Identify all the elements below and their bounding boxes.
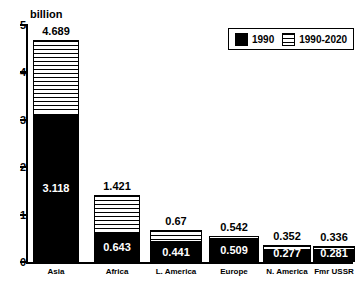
bar-stack: 3.118 <box>33 40 79 262</box>
bar-total-label: 1.421 <box>103 180 131 192</box>
bar-value-label-1990: 0.509 <box>220 244 248 256</box>
bar-stack: 0.643 <box>94 195 140 262</box>
bar-group: 0.6431.421Africa <box>94 195 140 262</box>
bar-segment-1990-2020 <box>95 196 139 231</box>
bar-segment-1990-2020 <box>34 41 78 113</box>
x-axis-category-label: L. America <box>156 267 197 276</box>
x-axis-category-label: Europe <box>220 267 248 276</box>
bar-group: 3.1184.689Asia <box>33 40 79 262</box>
bar-group: 0.5090.542Europe <box>209 236 259 262</box>
bar-stack: 0.509 <box>209 236 259 262</box>
bar-segment-1990: 0.643 <box>95 232 139 261</box>
bar-value-label-1990: 0.643 <box>103 241 131 253</box>
bar-stack: 0.277 <box>263 245 311 262</box>
bar-group: 0.2770.352N. America <box>263 245 311 262</box>
bar-total-label: 0.542 <box>220 221 248 233</box>
legend-label-1990-2020: 1990-2020 <box>299 34 347 45</box>
x-axis-category-label: Africa <box>106 267 129 276</box>
bar-total-label: 0.336 <box>320 231 348 243</box>
bar-group: 0.2810.336Fmr USSR <box>313 246 355 262</box>
population-stacked-bar-chart: billion 012345 3.1184.689Asia0.6431.421A… <box>0 0 361 290</box>
x-axis-category-label: Fmr USSR <box>314 267 354 276</box>
bar-total-label: 0.352 <box>273 230 301 242</box>
legend-swatch-hatch-icon <box>282 33 295 46</box>
bar-segment-1990: 0.441 <box>151 241 201 261</box>
legend-swatch-solid-icon <box>235 33 248 46</box>
legend-item-1990-2020: 1990-2020 <box>282 33 347 46</box>
bar-segment-1990-2020 <box>151 231 201 240</box>
bar-group: 0.4410.67L. America <box>150 230 202 262</box>
bar-value-label-1990: 0.281 <box>320 247 348 259</box>
bar-value-label-1990: 0.277 <box>273 247 301 259</box>
x-axis-category-label: Asia <box>48 267 65 276</box>
bar-total-label: 4.689 <box>42 25 70 37</box>
bar-stack: 0.441 <box>150 230 202 262</box>
legend-label-1990: 1990 <box>252 34 274 45</box>
x-axis-category-label: N. America <box>266 267 308 276</box>
bar-total-label: 0.67 <box>165 215 186 227</box>
bar-segment-1990: 0.281 <box>314 249 354 261</box>
bar-value-label-1990: 3.118 <box>43 182 70 194</box>
bar-stack: 0.281 <box>313 246 355 262</box>
bar-value-label-1990: 0.441 <box>162 246 190 258</box>
bar-segment-1990: 0.277 <box>264 249 310 261</box>
bar-segment-1990: 0.509 <box>210 238 258 261</box>
bar-segment-1990: 3.118 <box>34 114 78 261</box>
chart-legend: 1990 1990-2020 <box>228 28 354 50</box>
legend-item-1990: 1990 <box>235 33 274 46</box>
